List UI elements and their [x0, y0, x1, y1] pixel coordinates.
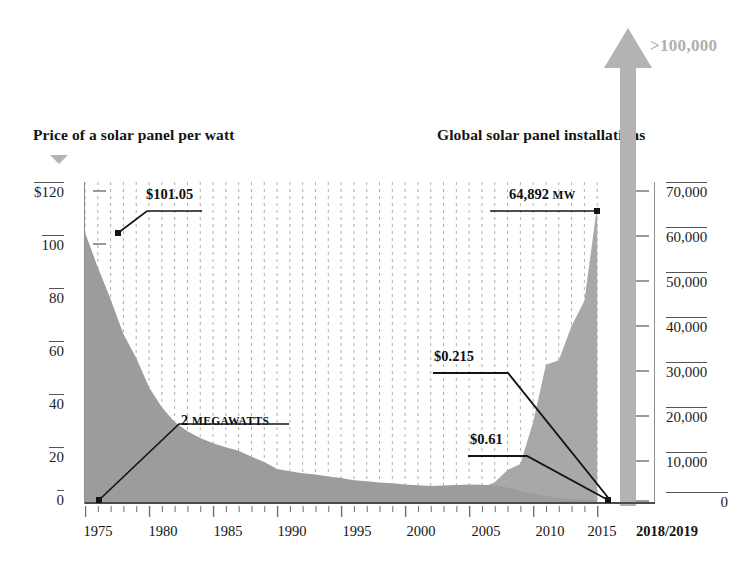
arrow-value-label: >100,000	[650, 36, 717, 56]
y-axis-tick-left: $120	[34, 182, 64, 201]
chart-figure: Price of a solar panel per watt Global s…	[0, 0, 754, 570]
y-axis-tick-left: 60	[49, 341, 64, 360]
x-axis-label: 2010	[536, 523, 565, 540]
y2-axis-tick-mark	[636, 370, 649, 372]
x-axis-label: 1990	[278, 523, 307, 540]
y2-axis-tick-mark	[636, 235, 649, 237]
price-area	[85, 233, 597, 502]
annotation-price-2011: $0.61	[470, 431, 503, 448]
down-triangle-icon	[50, 155, 68, 164]
y-axis-tick-left: 40	[49, 394, 64, 413]
y-axis-tick-left: 0	[57, 490, 65, 509]
y2-axis-tick-right: 60,000	[666, 227, 707, 246]
x-axis-label: 1975	[84, 523, 113, 540]
x-axis-label: 1985	[214, 523, 243, 540]
y2-axis-tick-mark	[636, 325, 649, 327]
y2-axis-tick-mark	[636, 460, 649, 462]
plot-area	[85, 182, 610, 502]
y2-axis-tick-mark	[636, 280, 649, 282]
x-axis-label: 1980	[149, 523, 178, 540]
x-axis-baseline	[85, 502, 655, 504]
y2-axis-tick-mark	[636, 500, 649, 502]
left-axis-title: Price of a solar panel per watt	[33, 126, 234, 144]
annotation-price-start: $101.05	[146, 186, 193, 203]
y2-axis-tick-right: 30,000	[666, 362, 707, 381]
x-axis-ticks	[85, 506, 630, 520]
y2-axis-tick-mark	[636, 190, 649, 192]
x-axis-label: 1995	[343, 523, 372, 540]
y2-axis-tick-right: 0	[666, 492, 728, 511]
y2-axis-tick-right: 10,000	[666, 452, 707, 471]
annotation-price-2008: $0.215	[434, 348, 474, 365]
x-axis-label-projection: 2018/2019	[636, 523, 698, 540]
y2-axis-tick-right: 40,000	[666, 317, 707, 336]
annotation-installs-1975: 2 MEGAWATTS	[181, 412, 269, 429]
x-axis-label: 2000	[407, 523, 436, 540]
x-axis-label: 2015	[588, 523, 617, 540]
y-axis-tick-left: 80	[49, 288, 64, 307]
y2-axis-tick-right: 50,000	[666, 272, 707, 291]
y2-axis-tick-right: 70,000	[666, 182, 707, 201]
y2-axis-tick-right: 20,000	[666, 407, 707, 426]
y2-axis-tick-mark	[636, 415, 649, 417]
y-axis-tick-left: 100	[42, 235, 65, 254]
annotation-installs-2015: 64,892 MW	[509, 186, 576, 203]
right-axis-line	[654, 182, 655, 504]
x-axis-label: 2005	[472, 523, 501, 540]
y-axis-tick-left: 20	[49, 447, 64, 466]
